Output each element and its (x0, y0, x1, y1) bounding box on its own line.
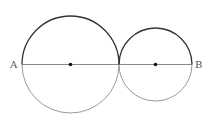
point-label-a: A (9, 59, 18, 70)
large-circle-lower-arc (22, 65, 119, 114)
small-circle-upper-arc (119, 28, 192, 65)
large-circle-center-dot (69, 63, 73, 67)
small-circle-lower-arc (119, 65, 192, 102)
large-circle-upper-arc (22, 16, 119, 65)
small-circle-center-dot (154, 63, 158, 67)
tangent-circles-diagram: A B (0, 0, 214, 127)
point-label-b: B (195, 59, 202, 70)
